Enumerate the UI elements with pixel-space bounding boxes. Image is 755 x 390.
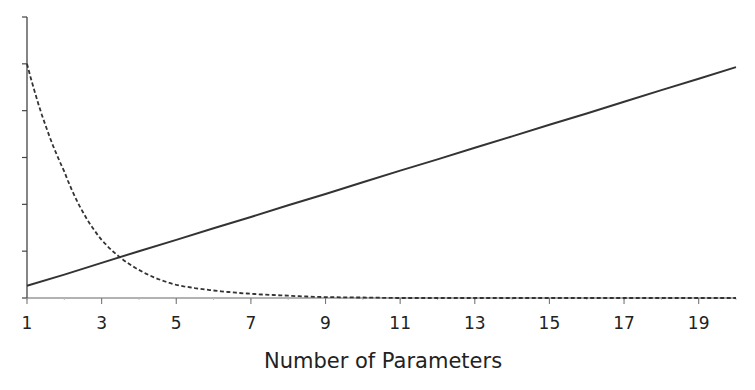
x-tick-label: 5 <box>171 313 182 333</box>
solid-line <box>27 67 736 286</box>
dashed-line <box>27 64 736 298</box>
x-tick-label: 9 <box>320 313 331 333</box>
x-axis: 135791113151719 <box>22 298 736 333</box>
x-tick-label: 3 <box>96 313 107 333</box>
series-layer <box>27 64 736 298</box>
y-axis <box>22 17 27 298</box>
x-tick-label: 15 <box>539 313 561 333</box>
x-tick-label: 11 <box>389 313 411 333</box>
x-tick-label: 7 <box>245 313 256 333</box>
x-tick-label: 17 <box>613 313 635 333</box>
line-chart: 135791113151719 Number of Parameters <box>0 0 755 390</box>
x-tick-label: 1 <box>22 313 33 333</box>
x-tick-label: 13 <box>464 313 486 333</box>
x-axis-title: Number of Parameters <box>264 349 502 373</box>
x-tick-label: 19 <box>688 313 710 333</box>
